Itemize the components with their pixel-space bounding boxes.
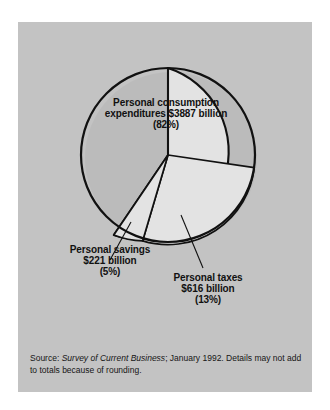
pie-label-consumption-line2: expenditures $3887 billion	[105, 108, 227, 119]
pie-label-consumption-line3: (82%)	[153, 119, 179, 130]
source-journal-title: Survey of Current Business	[62, 353, 165, 363]
pie-label-consumption: Personal consumption expenditures $3887 …	[44, 97, 288, 131]
pie-label-taxes-line1: Personal taxes	[173, 272, 242, 283]
pie-chart: Personal consumption expenditures $3887 …	[18, 22, 312, 332]
pie-label-taxes-line3: (13%)	[195, 294, 221, 305]
source-note: Source: Survey of Current Business; Janu…	[30, 352, 302, 377]
pie-label-consumption-line1: Personal consumption	[113, 97, 219, 108]
figure-panel: Personal consumption expenditures $3887 …	[18, 22, 312, 392]
pie-label-taxes: Personal taxes $616 billion (13%)	[146, 272, 270, 306]
pie-label-savings-line2: $221 billion	[83, 255, 136, 266]
source-prefix: Source:	[30, 353, 62, 363]
figure-page: Personal consumption expenditures $3887 …	[0, 0, 330, 410]
pie-label-savings-line3: (5%)	[100, 266, 121, 277]
pie-label-taxes-line2: $616 billion	[181, 283, 234, 294]
pie-label-savings-line1: Personal savings	[70, 244, 151, 255]
